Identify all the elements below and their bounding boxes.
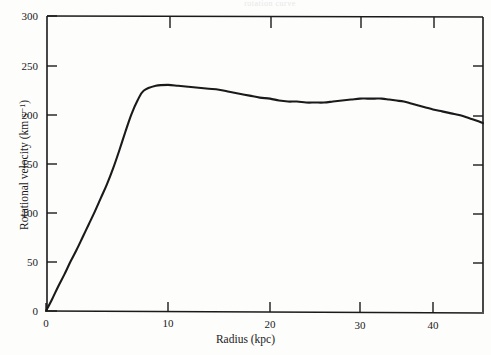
axis-frame: [46, 16, 484, 313]
xtick-label-30: 30: [347, 320, 373, 331]
xtick-label-10: 10: [155, 318, 181, 329]
x-axis-ticks-top: [170, 17, 434, 28]
xtick-label-0: 0: [33, 318, 59, 329]
ytick-label-0: 0: [8, 306, 38, 317]
xtick-label-20: 20: [257, 319, 283, 330]
rotation-curve-line: [46, 85, 483, 311]
plot-area: [0, 0, 491, 355]
y-axis-title-text: Rotational velocity (km s⁻¹): [18, 100, 30, 230]
ytick-label-300: 300: [8, 11, 38, 22]
y-axis-title: Rotational velocity (km s⁻¹): [17, 65, 31, 265]
y-axis-ticks-right: [473, 66, 483, 263]
x-axis-title: Radius (kpc): [0, 333, 491, 345]
xtick-label-40: 40: [420, 320, 446, 331]
rotation-curve-figure: rotation curve: [0, 0, 491, 355]
y-axis-ticks-left: [47, 16, 57, 311]
